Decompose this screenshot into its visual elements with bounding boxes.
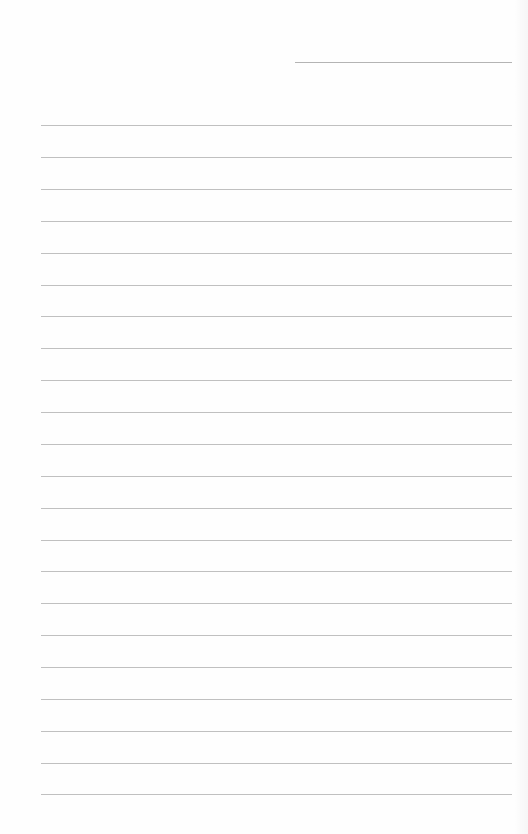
ruled-line bbox=[41, 603, 512, 604]
ruled-line bbox=[41, 476, 512, 477]
ruled-line bbox=[41, 348, 512, 349]
ruled-line bbox=[41, 667, 512, 668]
ruled-line bbox=[41, 731, 512, 732]
ruled-line bbox=[41, 540, 512, 541]
ruled-line bbox=[41, 444, 512, 445]
ruled-line bbox=[41, 699, 512, 700]
ruled-line bbox=[41, 380, 512, 381]
ruled-line bbox=[41, 635, 512, 636]
ruled-line bbox=[41, 189, 512, 190]
ruled-line bbox=[41, 221, 512, 222]
ruled-line bbox=[41, 125, 512, 126]
ruled-line bbox=[41, 285, 512, 286]
ruled-line bbox=[41, 794, 512, 795]
notebook-page bbox=[0, 0, 528, 834]
ruled-lines bbox=[0, 0, 528, 834]
ruled-line bbox=[41, 508, 512, 509]
ruled-line bbox=[41, 763, 512, 764]
page-edge-shadow bbox=[514, 0, 528, 834]
ruled-line bbox=[41, 571, 512, 572]
ruled-line bbox=[41, 412, 512, 413]
ruled-line bbox=[41, 316, 512, 317]
ruled-line bbox=[41, 253, 512, 254]
ruled-line bbox=[41, 157, 512, 158]
